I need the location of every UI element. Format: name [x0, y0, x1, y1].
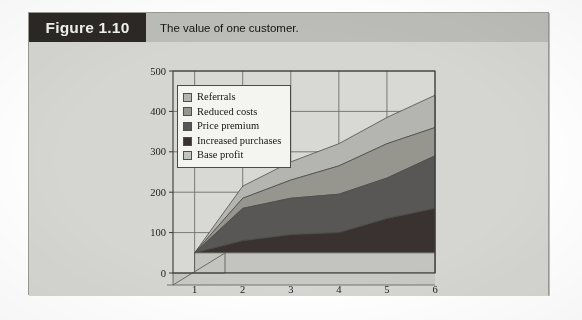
x-tick-label: 6 — [432, 284, 437, 295]
legend-swatch-increased-purchases — [183, 137, 192, 146]
stacked-area-chart: 0100200300400500 123456 — [29, 42, 550, 296]
legend-label-increased-purchases: Increased purchases — [197, 136, 281, 147]
legend-label-reduced-costs: Reduced costs — [197, 107, 257, 118]
legend-label-referrals: Referrals — [197, 92, 235, 103]
legend-swatch-base-profit — [183, 151, 192, 160]
y-tick-label: 200 — [150, 187, 166, 198]
y-tick-label: 300 — [150, 146, 166, 157]
y-tick-label: 100 — [150, 227, 166, 238]
legend-label-price-premium: Price premium — [197, 121, 259, 132]
figure-number-label: Figure 1.10 — [29, 13, 146, 42]
legend-item: Base profit — [183, 148, 284, 163]
x-tick-label: 3 — [288, 284, 293, 295]
legend-label-base-profit: Base profit — [197, 150, 243, 161]
legend-item: Reduced costs — [183, 105, 284, 120]
figure-container: Figure 1.10 The value of one customer. 0… — [28, 12, 549, 295]
legend-item: Price premium — [183, 119, 284, 134]
figure-caption: The value of one customer. — [146, 13, 548, 42]
chart-legend: Referrals Reduced costs Price premium In… — [177, 85, 291, 168]
legend-swatch-reduced-costs — [183, 107, 192, 116]
legend-swatch-price-premium — [183, 122, 192, 131]
y-tick-label: 400 — [150, 106, 166, 117]
x-tick-label: 4 — [336, 284, 342, 295]
legend-swatch-referrals — [183, 93, 192, 102]
chart-region: 0100200300400500 123456 Referrals Reduce… — [29, 42, 548, 296]
area-base-profit — [195, 253, 435, 273]
below-axis-band — [173, 273, 435, 285]
x-tick-label: 5 — [384, 284, 389, 295]
x-tick-label: 2 — [240, 284, 245, 295]
y-axis: 0100200300400500 — [150, 66, 173, 279]
legend-item: Referrals — [183, 90, 284, 105]
legend-item: Increased purchases — [183, 134, 284, 149]
figure-header: Figure 1.10 The value of one customer. — [29, 13, 548, 42]
x-axis: 123456 — [167, 284, 438, 295]
y-tick-label: 0 — [161, 268, 166, 279]
y-tick-label: 500 — [150, 66, 166, 77]
x-tick-label: 1 — [192, 284, 197, 295]
